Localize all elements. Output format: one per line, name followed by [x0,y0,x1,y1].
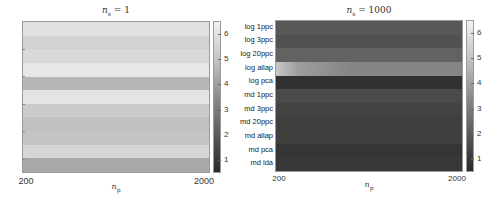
y-category-label: md pca [239,145,273,154]
colorbar-tick-mark [471,83,474,84]
colorbar-tick-mark [471,33,474,34]
colorbar-tick-label: 5 [477,53,481,62]
heatmap-row [23,131,209,145]
right-colorbar [466,20,474,172]
y-category-label: md 3ppc [239,104,273,113]
heatmap-row [276,144,462,158]
left-x-tick-2000: 2000 [194,176,214,186]
colorbar-tick-mark [218,84,221,85]
heatmap-row [23,90,209,104]
right-x-tick-2000: 2000 [448,174,466,183]
xlabel-sub: p [117,186,121,193]
y-category-label: md lda [239,158,273,167]
colorbar-tick-mark [218,59,221,60]
heatmap-row [276,62,462,76]
heatmap-row [276,116,462,130]
colorbar-tick-label: 2 [224,130,228,139]
xlabel-sub: p [370,184,374,191]
heatmap-row [276,103,462,117]
colorbar-tick-label: 4 [224,79,228,88]
y-category-label: md 20ppc [239,117,273,126]
colorbar-tick-mark [218,160,221,161]
left-heatmap-plot [22,21,210,173]
colorbar-tick-label: 2 [477,129,481,138]
y-tick-mark [22,131,25,132]
colorbar-tick-label: 3 [477,104,481,113]
colorbar-tick-mark [471,58,474,59]
colorbar-tick-label: 4 [477,78,481,87]
colorbar-tick-mark [471,134,474,135]
left-x-tick-200: 200 [18,176,33,186]
y-category-label: log 1ppc [239,22,273,31]
left-chart-title: ns = 1 [102,5,130,17]
y-tick-mark [22,49,25,50]
heatmap-row [276,89,462,103]
heatmap-row [276,76,462,90]
heatmap-row [23,104,209,118]
heatmap-row [23,36,209,50]
y-category-label: log allap [239,63,273,72]
left-colorbar [213,21,221,173]
colorbar-tick-label: 3 [224,105,228,114]
y-tick-mark [22,76,25,77]
colorbar-tick-label: 1 [224,155,228,164]
colorbar-tick-label: 1 [477,154,481,163]
colorbar-tick-mark [218,135,221,136]
colorbar-tick-label: 6 [477,28,481,37]
heatmap-row [23,49,209,63]
left-x-axis-label: np [112,182,121,193]
y-category-label: log pca [239,76,273,85]
right-heatmap-plot [275,20,463,172]
heatmap-row [276,130,462,144]
heatmap-row [276,35,462,49]
colorbar-tick-label: 6 [224,29,228,38]
heatmap-row [276,157,462,171]
heatmap-row [23,117,209,131]
colorbar-tick-mark [471,109,474,110]
heatmap-row [23,77,209,91]
title-rest: = 1 [111,5,130,15]
right-x-axis-label: np [365,180,374,191]
heatmap-row [23,22,209,36]
colorbar-tick-mark [218,34,221,35]
y-category-label: log 3ppc [239,35,273,44]
y-tick-mark [22,104,25,105]
colorbar-tick-mark [218,110,221,111]
right-x-tick-200: 200 [272,174,285,183]
title-rest: = 1000 [355,5,391,15]
y-category-label: md allap [239,131,273,140]
colorbar-tick-mark [471,159,474,160]
y-category-label: log 20ppc [239,49,273,58]
heatmap-row [23,158,209,172]
heatmap-row [23,63,209,77]
right-chart-title: ns = 1000 [346,5,391,17]
heatmap-row [276,21,462,35]
y-tick-mark [22,159,25,160]
y-category-label: md 1ppc [239,90,273,99]
heatmap-row [23,145,209,159]
colorbar-tick-label: 5 [224,54,228,63]
heatmap-row [276,48,462,62]
